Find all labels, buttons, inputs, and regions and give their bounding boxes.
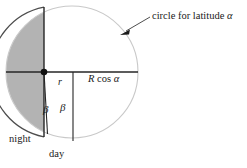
latitude-circle-diagram: circle for latitude α r R cos α β β nigh… xyxy=(0,0,247,168)
label-radius-r: r xyxy=(58,77,62,87)
label-circle-for-latitude-alpha: α xyxy=(227,10,233,21)
label-r-cos-alpha: R cos α xyxy=(88,74,119,85)
center-point-dot xyxy=(41,69,48,76)
label-night: night xyxy=(9,134,31,145)
label-r-cos-alpha-alpha: α xyxy=(114,73,120,84)
label-r-cos-alpha-cos: cos xyxy=(94,73,113,84)
label-beta-right: β xyxy=(60,102,65,113)
label-day: day xyxy=(49,149,64,160)
label-circle-for-latitude: circle for latitude α xyxy=(152,11,232,22)
label-circle-for-latitude-text: circle for latitude xyxy=(152,10,227,21)
diagram-canvas xyxy=(0,0,247,168)
leader-arrowhead-icon xyxy=(120,30,130,36)
label-beta-left: β xyxy=(43,104,48,115)
leader-line xyxy=(126,17,150,31)
